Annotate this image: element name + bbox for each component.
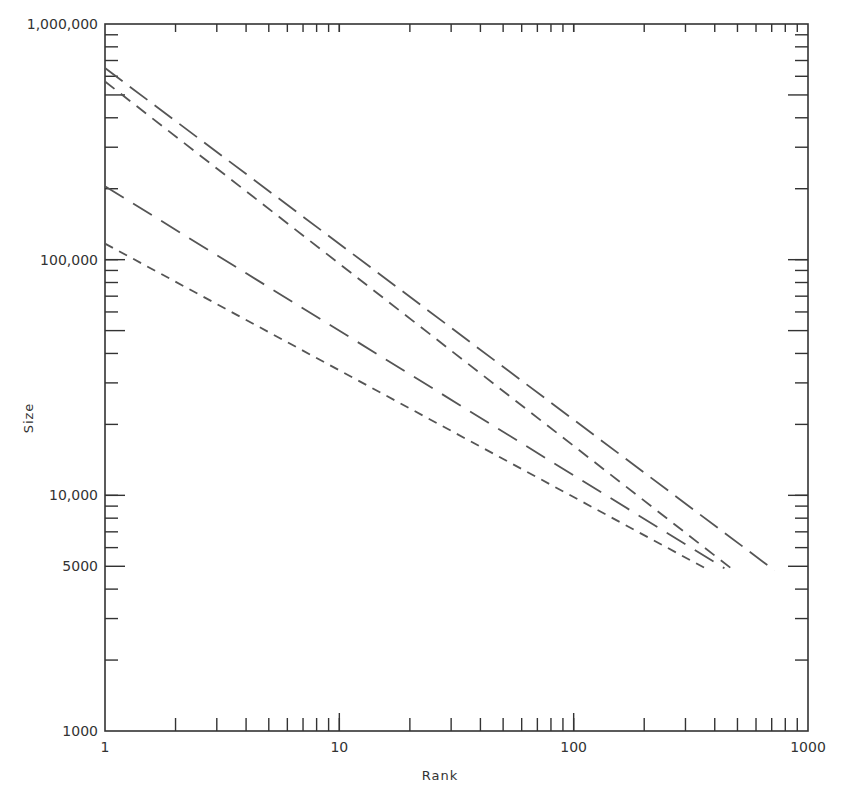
x-tick-label: 1 xyxy=(101,739,110,755)
line-series-3 xyxy=(105,186,724,568)
chart-figure: 1101001000 1000500010,000100,0001,000,00… xyxy=(0,0,850,794)
y-tick-label: 100,000 xyxy=(40,252,98,268)
plot-border xyxy=(105,24,808,731)
y-tick-labels: 1000500010,000100,0001,000,000 xyxy=(27,16,98,739)
line-series-1 xyxy=(105,68,775,570)
plot-frame xyxy=(105,24,808,731)
x-axis-title: Rank xyxy=(422,768,458,783)
y-axis-title: Size xyxy=(21,403,36,434)
x-tick-labels: 1101001000 xyxy=(101,739,826,755)
y-tick-label: 5000 xyxy=(62,558,98,574)
y-tick-label: 10,000 xyxy=(49,487,98,503)
line-series-2 xyxy=(105,82,731,569)
data-series xyxy=(105,68,775,570)
y-tick-label: 1000 xyxy=(62,723,98,739)
y-tick-label: 1,000,000 xyxy=(27,16,98,32)
x-tick-label: 10 xyxy=(330,739,348,755)
x-tick-label: 1000 xyxy=(790,739,826,755)
axis-ticks xyxy=(105,24,808,731)
x-tick-label: 100 xyxy=(560,739,587,755)
